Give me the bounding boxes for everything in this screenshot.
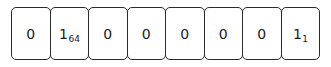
bit-cell: 0 bbox=[242, 7, 282, 60]
bit-cell: 11 bbox=[281, 7, 321, 60]
bit-content: 0 bbox=[103, 26, 112, 42]
bit-content: 164 bbox=[59, 26, 79, 42]
bit-content: 0 bbox=[26, 26, 35, 42]
bit-content: 0 bbox=[219, 26, 228, 42]
bit-content: 0 bbox=[142, 26, 151, 42]
bit-cell: 0 bbox=[165, 7, 205, 60]
bit-subscript: 64 bbox=[68, 34, 79, 44]
bit-content: 0 bbox=[180, 26, 189, 42]
bit-value: 1 bbox=[293, 26, 302, 42]
bit-value: 0 bbox=[180, 26, 189, 42]
bit-cell: 164 bbox=[50, 7, 90, 60]
bit-subscript: 1 bbox=[302, 34, 308, 44]
bit-cell: 0 bbox=[204, 7, 244, 60]
bit-cell: 0 bbox=[11, 7, 51, 60]
bit-value: 0 bbox=[257, 26, 266, 42]
bitfield-diagram: 0 164 0 0 0 0 0 11 bbox=[11, 7, 320, 60]
bit-cell: 0 bbox=[88, 7, 128, 60]
bit-value: 0 bbox=[103, 26, 112, 42]
bit-cell: 0 bbox=[127, 7, 167, 60]
bit-value: 0 bbox=[142, 26, 151, 42]
bit-value: 1 bbox=[59, 26, 68, 42]
bit-content: 11 bbox=[293, 26, 308, 42]
bit-content: 0 bbox=[257, 26, 266, 42]
bit-value: 0 bbox=[219, 26, 228, 42]
bit-value: 0 bbox=[26, 26, 35, 42]
